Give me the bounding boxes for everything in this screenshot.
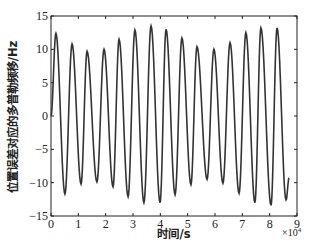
y-tick-label: −5 bbox=[35, 142, 48, 156]
x-axis-label: 时间/s bbox=[157, 227, 190, 241]
x-tick-label: 2 bbox=[103, 217, 109, 231]
y-tick-label: −15 bbox=[29, 209, 48, 223]
x-tick-label: 1 bbox=[75, 217, 81, 231]
x-axis-multiplier: ×104 bbox=[282, 226, 302, 238]
plot-area: 0123456789 151050−5−10−15 bbox=[29, 9, 300, 231]
x-tick-label: 0 bbox=[48, 217, 54, 231]
x-tick-label: 6 bbox=[212, 217, 218, 231]
y-tick-label: 5 bbox=[42, 76, 48, 90]
x-tick-label: 8 bbox=[267, 217, 273, 231]
x-tick-label: 3 bbox=[130, 217, 136, 231]
y-tick-label: 15 bbox=[36, 9, 48, 23]
doppler-shift-chart: 0123456789 151050−5−10−15 时间/s ×104 位置误差… bbox=[0, 0, 311, 251]
y-tick-label: 0 bbox=[42, 109, 48, 123]
y-tick-label: −10 bbox=[29, 176, 48, 190]
y-axis-label: 位置误差对应的多普勒频移/Hz bbox=[6, 40, 20, 193]
y-tick-label: 10 bbox=[36, 42, 48, 56]
x-tick-label: 7 bbox=[239, 217, 245, 231]
